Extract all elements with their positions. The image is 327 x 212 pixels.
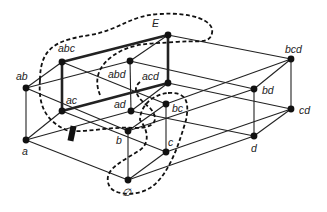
node-bcd <box>288 56 295 63</box>
edge-empty-c <box>128 152 166 180</box>
node-acd <box>165 80 172 87</box>
edge-ab-abc <box>26 62 62 88</box>
node-label-E: E <box>152 17 160 29</box>
hypercube-lattice-diagram: Eabcabdacdbcdabacadbcbdcdabcd∅ <box>0 0 327 212</box>
node-labels: Eabcabdacdbcdabacadbcbdcdabcd∅ <box>16 17 311 198</box>
node-d <box>251 133 258 140</box>
node-label-ab: ab <box>16 70 28 82</box>
node-b <box>125 128 132 135</box>
node-bc <box>163 101 170 108</box>
node-a <box>23 137 30 144</box>
edge-empty-a <box>26 140 128 180</box>
node-E <box>165 32 172 39</box>
node-label-cd: cd <box>299 104 311 116</box>
node-label-ac: ac <box>66 94 78 106</box>
edge-bcd-E <box>168 35 291 59</box>
node-label-bc: bc <box>172 102 184 114</box>
node-cd <box>288 106 295 113</box>
edge-d-cd <box>254 109 291 136</box>
node-ad <box>128 108 135 115</box>
node-label-abd: abd <box>108 68 127 80</box>
node-label-d: d <box>251 142 258 154</box>
node-label-c: c <box>168 136 174 148</box>
node-label-empty: ∅ <box>122 186 132 198</box>
edge-a-ac <box>26 111 62 140</box>
edge-ad-abd <box>130 61 131 111</box>
node-bd <box>251 86 258 93</box>
node-label-bd: bd <box>262 84 275 96</box>
node-ab <box>23 85 30 92</box>
node-label-bcd: bcd <box>285 43 303 55</box>
node-label-acd: acd <box>142 70 160 82</box>
node-abc <box>59 59 66 66</box>
region-E-abd <box>40 14 212 95</box>
node-label-b: b <box>116 134 122 146</box>
node-ac <box>59 108 66 115</box>
edge-empty-d <box>128 136 254 180</box>
node-label-a: a <box>22 145 28 157</box>
node-label-abc: abc <box>58 42 76 54</box>
lattice-edges <box>26 35 291 180</box>
thick-edge-abc-E <box>62 35 168 62</box>
node-c <box>163 149 170 156</box>
node-empty <box>125 177 132 184</box>
node-label-ad: ad <box>114 98 127 110</box>
node-abd <box>127 58 134 65</box>
